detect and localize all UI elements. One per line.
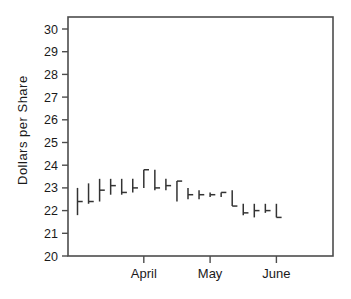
- y-tick-label: 24: [44, 159, 58, 173]
- price-bar: [243, 204, 248, 215]
- x-tick-label-may: May: [198, 266, 223, 281]
- y-tick-label: 25: [44, 136, 58, 150]
- x-axis-ticks: AprilMayJune: [131, 256, 291, 281]
- plot-frame: [68, 17, 333, 256]
- price-bar: [133, 179, 138, 193]
- chart-canvas: Dollars per Share 3029282726252423222120…: [0, 0, 351, 299]
- price-bar: [144, 170, 149, 188]
- price-bar: [210, 192, 215, 197]
- price-bar: [265, 204, 270, 213]
- price-bar: [221, 192, 226, 197]
- price-bar: [122, 179, 127, 195]
- price-bar: [276, 204, 281, 218]
- y-axis-ticks: 3029282726252423222120: [44, 23, 68, 264]
- y-tick-label: 26: [44, 113, 58, 127]
- price-bar: [232, 190, 237, 206]
- y-tick-label: 30: [44, 23, 58, 37]
- x-tick-label-april: April: [131, 266, 157, 281]
- y-tick-label: 22: [44, 204, 58, 218]
- price-bar: [199, 190, 204, 199]
- price-bar: [100, 179, 105, 202]
- y-tick-label: 27: [44, 91, 58, 105]
- y-tick-label: 21: [44, 227, 58, 241]
- stock-price-chart: Dollars per Share 3029282726252423222120…: [0, 0, 351, 299]
- y-axis-title-text: Dollars per Share: [15, 75, 30, 185]
- price-bar: [111, 179, 116, 195]
- price-bar: [188, 188, 193, 199]
- price-bar-series: [78, 170, 282, 218]
- plot-border: [68, 17, 333, 256]
- y-tick-label: 23: [44, 181, 58, 195]
- y-tick-label: 20: [44, 250, 58, 264]
- price-bar: [177, 181, 182, 201]
- y-tick-label: 29: [44, 45, 58, 59]
- x-tick-label-june: June: [262, 266, 290, 281]
- price-bar: [78, 188, 83, 215]
- price-bar: [155, 170, 160, 190]
- price-bar: [89, 183, 94, 203]
- price-bar: [166, 179, 171, 190]
- price-bar: [254, 204, 259, 218]
- y-tick-label: 28: [44, 68, 58, 82]
- y-axis-title: Dollars per Share: [15, 75, 30, 185]
